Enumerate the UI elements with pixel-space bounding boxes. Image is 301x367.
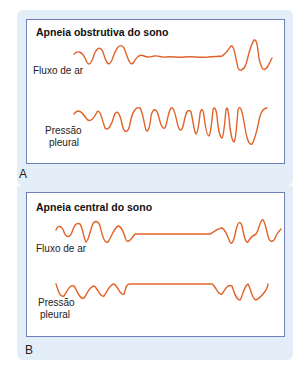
panel-a-airflow-trace (74, 40, 272, 70)
panel-a-pressure-trace (74, 108, 267, 145)
waveform-traces (0, 0, 301, 367)
panel-b-pressure-trace (56, 284, 268, 300)
panel-b-airflow-trace (56, 220, 281, 244)
